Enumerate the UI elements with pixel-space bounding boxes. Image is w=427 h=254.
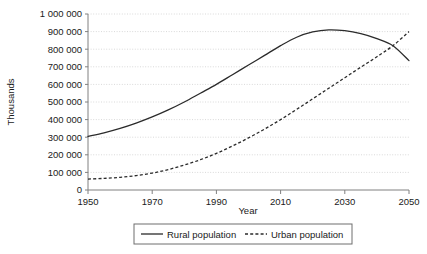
y-axis-tick-label: 600 000 — [48, 79, 82, 90]
x-axis-tick-label: 1990 — [206, 196, 227, 207]
y-axis-title: Thousands — [5, 78, 16, 125]
x-axis-tick-label: 2030 — [334, 196, 355, 207]
line-chart: 0100 000200 000300 000400 000500 000600 … — [0, 0, 427, 254]
chart-container: 0100 000200 000300 000400 000500 000600 … — [0, 0, 427, 254]
y-axis-tick-label: 0 — [77, 184, 82, 195]
legend-label-urban-population: Urban population — [271, 229, 343, 240]
y-axis-tick-label: 300 000 — [48, 132, 82, 143]
chart-background — [0, 0, 427, 254]
y-axis-tick-label: 400 000 — [48, 114, 82, 125]
y-axis-tick-label: 1 000 000 — [40, 8, 82, 19]
chart-legend: Rural population Urban population — [134, 224, 352, 244]
y-axis-tick-label: 900 000 — [48, 26, 82, 37]
y-axis-tick-label: 700 000 — [48, 61, 82, 72]
x-axis-tick-label: 2010 — [270, 196, 291, 207]
x-axis-tick-label: 2050 — [398, 196, 419, 207]
y-axis-tick-label: 800 000 — [48, 44, 82, 55]
y-axis-tick-label: 100 000 — [48, 167, 82, 178]
legend-label-rural-population: Rural population — [167, 229, 236, 240]
x-axis-title: Year — [238, 205, 257, 216]
y-axis-tick-label: 500 000 — [48, 96, 82, 107]
x-axis-tick-label: 1950 — [77, 196, 98, 207]
y-axis-tick-label: 200 000 — [48, 149, 82, 160]
x-axis-tick-label: 1970 — [142, 196, 163, 207]
